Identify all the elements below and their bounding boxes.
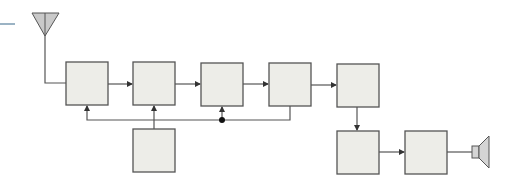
block-4 <box>269 63 311 106</box>
block-1 <box>66 62 108 105</box>
block-2 <box>133 62 175 105</box>
antenna-icon <box>32 13 66 83</box>
junction-dot <box>219 117 225 123</box>
block-3 <box>201 63 243 106</box>
speaker-icon <box>472 136 489 168</box>
block-diagram <box>0 0 517 183</box>
block-6 <box>133 129 175 172</box>
block-5 <box>337 64 379 107</box>
control-bus <box>87 106 290 129</box>
block-8 <box>405 131 447 174</box>
block-7 <box>337 131 379 174</box>
